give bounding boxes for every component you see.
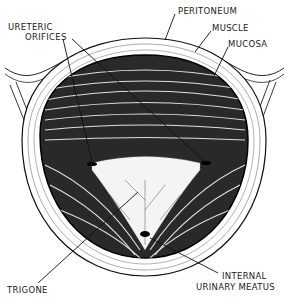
label-muscle: MUSCLE [212,23,249,33]
ureteric-orifice-right [201,161,211,165]
label-internal-line1: INTERNAL [222,271,267,281]
label-trigone: TRIGONE [7,285,48,295]
internal-urinary-meatus [140,231,150,237]
ureteric-orifice-left [87,162,97,166]
bladder-diagram: PERITONEUM MUSCLE MUCOSA URETERIC ORIFIC… [0,0,287,302]
label-peritoneum: PERITONEUM [178,6,237,16]
label-ureteric-line1: URETERIC [8,22,53,32]
label-mucosa: MUCOSA [228,39,267,49]
label-ureteric-line2: ORIFICES [25,32,67,42]
label-internal-line2: URINARY MEATUS [196,282,275,292]
